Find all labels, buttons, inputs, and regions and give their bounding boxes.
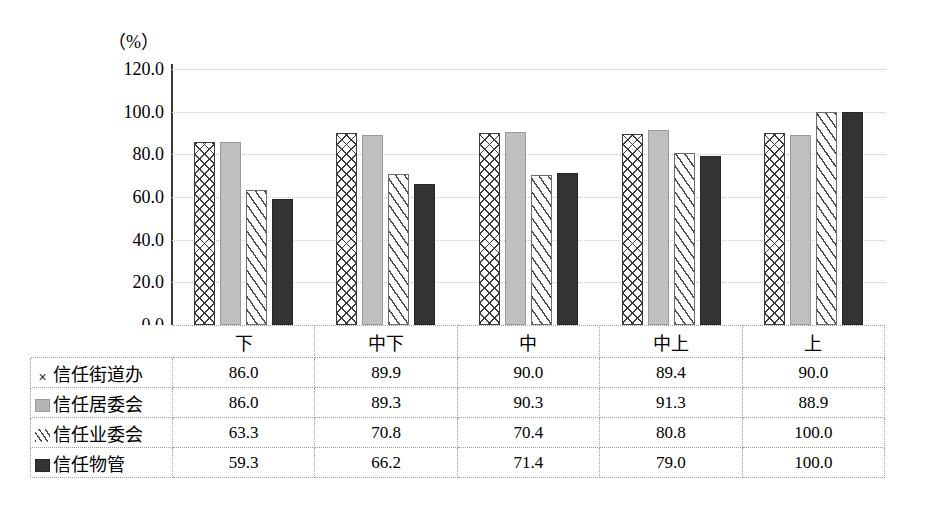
bar-信任物管-下[interactable] bbox=[272, 199, 293, 326]
series-name-text: 信任业委会 bbox=[53, 425, 143, 445]
table-row-label-信任物管: 信任物管 bbox=[31, 448, 173, 478]
hatch-square-icon bbox=[35, 429, 50, 442]
bar-group-中上 bbox=[600, 69, 743, 325]
y-tick-60: 60.0 bbox=[98, 187, 164, 208]
bar-信任居委会-中上[interactable] bbox=[648, 130, 669, 325]
y-tick-120: 120.0 bbox=[98, 59, 164, 80]
table-row-label-信任街道办: ×信任街道办 bbox=[31, 358, 173, 388]
table-cell-信任街道办-上: 90.0 bbox=[742, 358, 884, 388]
table-column-header-上: 上 bbox=[742, 326, 884, 358]
bar-信任业委会-中上[interactable] bbox=[674, 153, 695, 325]
bar-slots bbox=[315, 69, 458, 325]
table-cell-信任街道办-中上: 89.4 bbox=[600, 358, 742, 388]
bar-groups bbox=[172, 69, 885, 325]
table-cell-信任居委会-中上: 91.3 bbox=[600, 388, 742, 418]
data-table: 下中下中中上上×信任街道办86.089.990.089.490.0信任居委会86… bbox=[30, 325, 885, 478]
y-tick-20: 20.0 bbox=[98, 272, 164, 293]
table-cell-信任居委会-上: 88.9 bbox=[742, 388, 884, 418]
series-name-text: 信任物管 bbox=[53, 455, 125, 475]
bar-group-中下 bbox=[315, 69, 458, 325]
table-row: ×信任街道办86.089.990.089.490.0 bbox=[31, 358, 885, 388]
bar-信任居委会-中[interactable] bbox=[505, 132, 526, 325]
bar-信任街道办-中上[interactable] bbox=[622, 134, 643, 325]
table-cell-信任业委会-下: 63.3 bbox=[172, 418, 314, 448]
series-name-text: 信任街道办 bbox=[53, 365, 143, 385]
bar-slots bbox=[600, 69, 743, 325]
table-cell-信任物管-中下: 66.2 bbox=[315, 448, 457, 478]
gray-square-icon bbox=[35, 399, 50, 412]
table-cell-信任业委会-上: 100.0 bbox=[742, 418, 884, 448]
bar-信任街道办-中下[interactable] bbox=[336, 133, 357, 325]
table-cell-信任街道办-中: 90.0 bbox=[457, 358, 599, 388]
bar-信任业委会-中下[interactable] bbox=[388, 174, 409, 325]
table-column-header-中下: 中下 bbox=[315, 326, 457, 358]
bar-group-下 bbox=[172, 69, 315, 325]
bar-信任居委会-下[interactable] bbox=[220, 142, 241, 325]
table-row-label-信任业委会: 信任业委会 bbox=[31, 418, 173, 448]
bar-group-中 bbox=[457, 69, 600, 325]
dark-square-icon bbox=[35, 459, 50, 472]
cross-icon: × bbox=[35, 371, 50, 384]
bar-信任街道办-上[interactable] bbox=[764, 133, 785, 325]
bar-slots bbox=[742, 69, 885, 325]
table-column-header-下: 下 bbox=[172, 326, 314, 358]
bar-信任业委会-下[interactable] bbox=[246, 190, 267, 325]
bar-信任业委会-上[interactable] bbox=[816, 112, 837, 325]
y-tick-80: 80.0 bbox=[98, 144, 164, 165]
bar-信任居委会-中下[interactable] bbox=[362, 135, 383, 326]
bar-信任业委会-中[interactable] bbox=[531, 175, 552, 325]
bar-信任物管-中[interactable] bbox=[557, 173, 578, 325]
table-cell-信任居委会-中: 90.3 bbox=[457, 388, 599, 418]
table-cell-信任业委会-中上: 80.8 bbox=[600, 418, 742, 448]
table-row-label-信任居委会: 信任居委会 bbox=[31, 388, 173, 418]
table-column-header-中: 中 bbox=[457, 326, 599, 358]
table-row: 信任居委会86.089.390.391.388.9 bbox=[31, 388, 885, 418]
y-axis-tick-labels: 120.0 100.0 80.0 60.0 40.0 20.0 0.0 bbox=[98, 69, 164, 325]
table-row: 信任物管59.366.271.479.0100.0 bbox=[31, 448, 885, 478]
bar-信任居委会-上[interactable] bbox=[790, 135, 811, 325]
table-column-header-中上: 中上 bbox=[600, 326, 742, 358]
table-cell-信任物管-中: 71.4 bbox=[457, 448, 599, 478]
chart-figure: （%） 120.0 100.0 80.0 60.0 40.0 20.0 0.0 … bbox=[0, 0, 925, 520]
table-cell-信任居委会-中下: 89.3 bbox=[315, 388, 457, 418]
bar-信任物管-中下[interactable] bbox=[414, 184, 435, 325]
series-name-text: 信任居委会 bbox=[53, 395, 143, 415]
bar-信任物管-中上[interactable] bbox=[700, 156, 721, 325]
bar-slots bbox=[457, 69, 600, 325]
table-cell-信任居委会-下: 86.0 bbox=[172, 388, 314, 418]
table-cell-信任物管-下: 59.3 bbox=[172, 448, 314, 478]
table-row: 信任业委会63.370.870.480.8100.0 bbox=[31, 418, 885, 448]
table-cell-信任街道办-下: 86.0 bbox=[172, 358, 314, 388]
table-header-row: 下中下中中上上 bbox=[31, 326, 885, 358]
table-cell-信任业委会-中下: 70.8 bbox=[315, 418, 457, 448]
table-cell-信任物管-上: 100.0 bbox=[742, 448, 884, 478]
bar-信任街道办-中[interactable] bbox=[479, 133, 500, 325]
bar-group-上 bbox=[742, 69, 885, 325]
y-tick-40: 40.0 bbox=[98, 229, 164, 250]
plot-area bbox=[172, 69, 885, 325]
table-cell-信任业委会-中: 70.4 bbox=[457, 418, 599, 448]
bar-信任街道办-下[interactable] bbox=[194, 142, 215, 325]
bar-信任物管-上[interactable] bbox=[842, 112, 863, 325]
table-corner-cell bbox=[31, 326, 173, 358]
table-cell-信任街道办-中下: 89.9 bbox=[315, 358, 457, 388]
y-axis-unit-label: （%） bbox=[108, 27, 159, 53]
y-tick-100: 100.0 bbox=[98, 101, 164, 122]
data-table-body: 下中下中中上上×信任街道办86.089.990.089.490.0信任居委会86… bbox=[31, 326, 885, 478]
table-cell-信任物管-中上: 79.0 bbox=[600, 448, 742, 478]
bar-slots bbox=[172, 69, 315, 325]
